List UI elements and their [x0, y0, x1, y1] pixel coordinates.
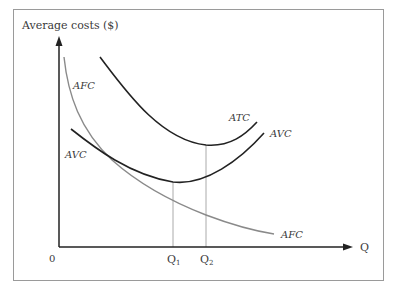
x-axis-label: Q [360, 241, 369, 254]
chart-frame [14, 10, 384, 281]
atc-label: ATC [228, 112, 250, 123]
afc-top-label: AFC [72, 80, 95, 91]
x-axis-arrow-icon [343, 244, 353, 251]
q2-label: Q2 [200, 253, 214, 267]
atc-curve [100, 57, 257, 145]
afc-right-label: AFC [280, 229, 303, 240]
origin-label: 0 [49, 253, 55, 264]
avc-right-label: AVC [269, 128, 292, 139]
q1-label: Q1 [167, 253, 181, 267]
afc-curve [64, 57, 274, 234]
y-axis-arrow-icon [56, 36, 63, 46]
y-axis-label: Average costs ($) [21, 19, 119, 32]
average-cost-chart: Average costs ($) Q 0 Q1 Q2 ATC AVC AVC … [0, 0, 393, 290]
avc-curve [71, 129, 264, 182]
avc-left-label: AVC [64, 149, 87, 160]
